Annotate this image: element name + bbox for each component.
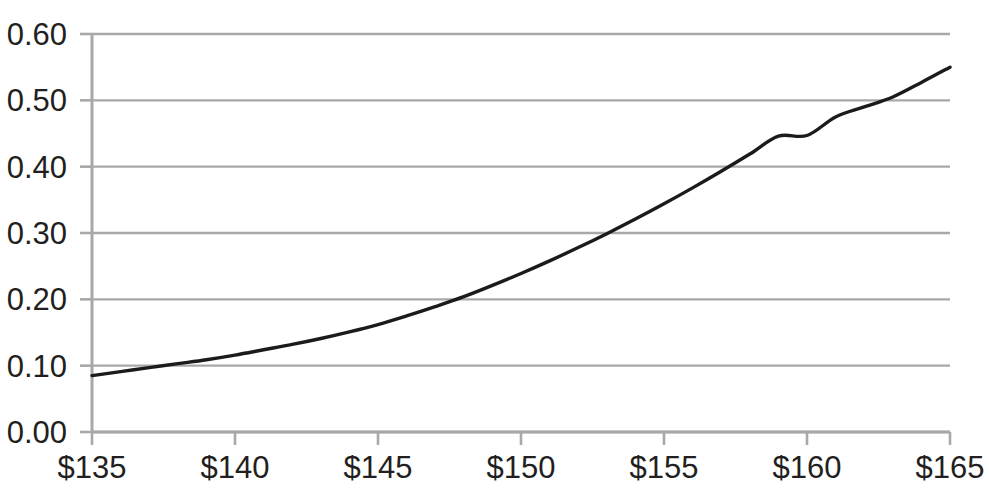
y-axis-label-0.10: 0.10 [7, 349, 67, 384]
x-axis-tick-marks [92, 432, 950, 445]
x-axis-label-$140: $140 [201, 450, 270, 485]
y-axis-label-0.30: 0.30 [7, 216, 67, 251]
y-axis-label-0.50: 0.50 [7, 83, 67, 118]
line-chart: 0.600.500.400.300.200.100.00 $135$140$14… [0, 0, 989, 499]
y-axis-label-0.40: 0.40 [7, 150, 67, 185]
y-axis-label-0.20: 0.20 [7, 282, 67, 317]
x-axis-label-$150: $150 [487, 450, 556, 485]
chart-container: 0.600.500.400.300.200.100.00 $135$140$14… [0, 0, 989, 499]
x-axis-label-$145: $145 [344, 450, 413, 485]
data-line-curve [92, 67, 950, 375]
y-axis [80, 34, 92, 432]
x-axis-tick-labels: $135$140$145$150$155$160$165 [58, 450, 985, 485]
gridlines [92, 34, 950, 432]
y-axis-tick-labels: 0.600.500.400.300.200.100.00 [7, 17, 67, 450]
y-axis-label-0.00: 0.00 [7, 415, 67, 450]
x-axis-label-$155: $155 [630, 450, 699, 485]
x-axis-label-$165: $165 [916, 450, 985, 485]
x-axis-label-$160: $160 [773, 450, 842, 485]
y-axis-label-0.60: 0.60 [7, 17, 67, 52]
x-axis-label-$135: $135 [58, 450, 127, 485]
data-series-curve [92, 67, 950, 375]
